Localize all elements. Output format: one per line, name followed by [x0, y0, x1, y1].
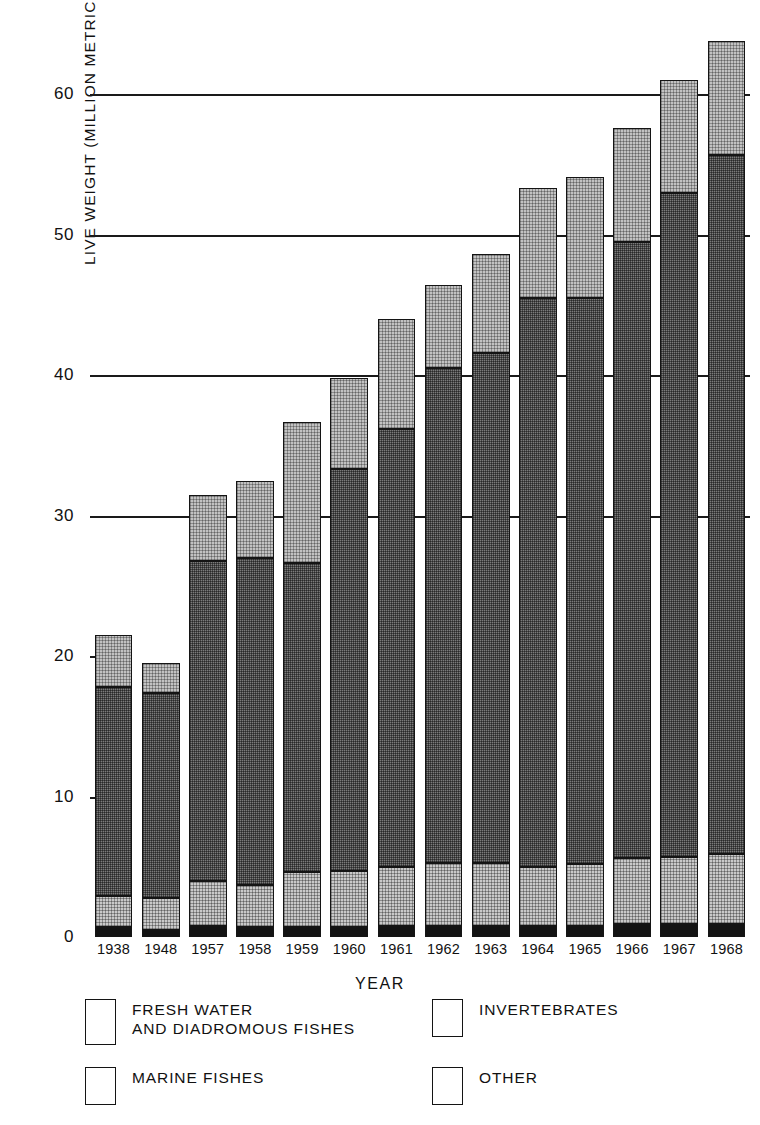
y-axis-tick-label: 40 [28, 366, 74, 383]
x-axis-tick-label: 1961 [373, 941, 420, 957]
bar-1961[interactable] [378, 319, 416, 937]
bar-segment-other [236, 927, 274, 937]
x-axis-tick-label: 1938 [90, 941, 137, 957]
bar-segment-fresh [330, 871, 368, 927]
legend-label: INVERTEBRATES [479, 999, 618, 1019]
y-axis-tick-label: 0 [28, 928, 74, 945]
y-axis-tick-label: 10 [28, 788, 74, 805]
bar-1948[interactable] [142, 663, 180, 937]
bar-1965[interactable] [566, 177, 604, 937]
bar-segment-invert [378, 319, 416, 429]
bar-segment-marine [566, 298, 604, 864]
y-axis-tick-label: 60 [28, 85, 74, 102]
bar-1957[interactable] [189, 495, 227, 937]
bar-segment-fresh [708, 854, 746, 924]
bar-segment-marine [378, 429, 416, 867]
legend-item-marine[interactable]: MARINE FISHES [85, 1067, 264, 1105]
bar-segment-fresh [472, 863, 510, 926]
bar-segment-other [708, 924, 746, 937]
bar-segment-other [95, 927, 133, 937]
fisheries-catch-chart-figure: LIVE WEIGHT (MILLION METRIC TONS) 010203… [0, 0, 760, 1125]
bar-segment-other [283, 927, 321, 937]
bar-1968[interactable] [708, 41, 746, 937]
bar-segment-marine [425, 368, 463, 862]
legend-swatch-invert-icon [432, 999, 463, 1037]
bar-segment-fresh [378, 867, 416, 926]
bar-segment-marine [95, 687, 133, 896]
bar-segment-other [566, 926, 604, 937]
bar-segment-marine [613, 242, 651, 859]
bar-segment-other [189, 926, 227, 937]
bar-segment-marine [142, 693, 180, 898]
y-axis-tick-label: 20 [28, 647, 74, 664]
bar-1963[interactable] [472, 254, 510, 937]
legend-label: MARINE FISHES [132, 1067, 264, 1087]
bar-segment-invert [472, 254, 510, 352]
bar-segment-fresh [519, 867, 557, 926]
bar-1960[interactable] [330, 378, 368, 937]
x-axis-tick-label: 1958 [231, 941, 278, 957]
chart-legend: FRESH WATER AND DIADROMOUS FISHESINVERTE… [0, 995, 760, 1115]
x-axis-tick-label: 1968 [703, 941, 750, 957]
bar-segment-other [613, 924, 651, 937]
bar-segment-invert [613, 128, 651, 242]
bar-segment-fresh [613, 858, 651, 924]
bar-1962[interactable] [425, 285, 463, 937]
bar-segment-invert [519, 188, 557, 298]
bar-segment-fresh [283, 872, 321, 927]
x-axis-tick-label: 1957 [184, 941, 231, 957]
y-axis-tick-label: 30 [28, 507, 74, 524]
bar-1966[interactable] [613, 128, 651, 937]
x-axis-tick-label: 1963 [467, 941, 514, 957]
bar-segment-marine [472, 353, 510, 863]
bar-1958[interactable] [236, 481, 274, 937]
bar-segment-invert [330, 378, 368, 469]
bar-segment-marine [519, 298, 557, 867]
legend-item-fresh[interactable]: FRESH WATER AND DIADROMOUS FISHES [85, 999, 355, 1045]
bar-segment-invert [566, 177, 604, 298]
legend-label: FRESH WATER AND DIADROMOUS FISHES [132, 999, 355, 1038]
x-axis-tick-label: 1960 [326, 941, 373, 957]
y-axis-tick-label: 50 [28, 226, 74, 243]
bar-segment-fresh [660, 857, 698, 924]
bar-segment-fresh [189, 881, 227, 926]
legend-item-other[interactable]: OTHER [432, 1067, 538, 1105]
x-axis-title: YEAR [0, 975, 760, 993]
bar-segment-invert [189, 495, 227, 561]
x-axis-tick-label: 1966 [609, 941, 656, 957]
bar-segment-invert [142, 663, 180, 692]
legend-swatch-marine-icon [85, 1067, 116, 1105]
legend-swatch-fresh-icon [85, 999, 116, 1045]
bar-segment-fresh [236, 885, 274, 927]
bar-segment-other [378, 926, 416, 937]
x-axis-tick-label: 1965 [561, 941, 608, 957]
bar-segment-other [330, 927, 368, 937]
bar-segment-marine [330, 469, 368, 871]
bar-segment-marine [660, 193, 698, 857]
bar-1967[interactable] [660, 80, 698, 937]
bar-segment-marine [708, 155, 746, 854]
bar-segment-invert [283, 422, 321, 564]
bar-segment-other [660, 924, 698, 937]
bar-segment-other [519, 926, 557, 937]
legend-swatch-other-icon [432, 1067, 463, 1105]
bar-segment-fresh [95, 896, 133, 927]
bar-1964[interactable] [519, 188, 557, 937]
bar-segment-fresh [425, 863, 463, 926]
x-axis-tick-label: 1967 [656, 941, 703, 957]
bar-segment-invert [425, 285, 463, 368]
x-axis-tick-label: 1948 [137, 941, 184, 957]
bar-segment-marine [189, 561, 227, 881]
bar-segment-invert [95, 635, 133, 687]
bar-segment-other [425, 926, 463, 937]
legend-item-invert[interactable]: INVERTEBRATES [432, 999, 618, 1037]
bars-layer [90, 10, 750, 937]
bar-segment-invert [660, 80, 698, 192]
x-axis-tick-label: 1964 [514, 941, 561, 957]
x-axis-tick-label: 1962 [420, 941, 467, 957]
bar-1959[interactable] [283, 422, 321, 937]
legend-label: OTHER [479, 1067, 538, 1087]
bar-1938[interactable] [95, 635, 133, 937]
bar-segment-marine [283, 563, 321, 872]
bar-segment-fresh [142, 898, 180, 930]
